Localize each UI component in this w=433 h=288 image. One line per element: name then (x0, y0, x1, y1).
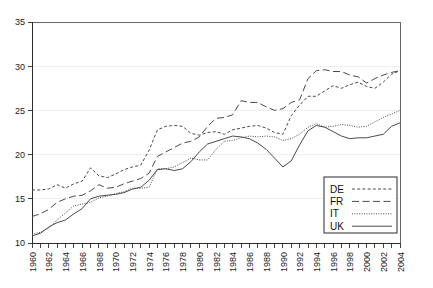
legend-label-uk: UK (330, 221, 344, 232)
y-tick-label: 35 (15, 17, 25, 27)
chart-legend: DEFRITUK (324, 177, 397, 233)
x-tick-label: 1966 (78, 252, 88, 272)
y-tick-label: 30 (15, 62, 25, 72)
x-tick-label: 1988 (262, 252, 272, 272)
x-tick-label: 1990 (279, 252, 289, 272)
x-axis: 1960196219641966196819701972197419761978… (28, 243, 406, 272)
x-tick-label: 1992 (295, 252, 305, 272)
line-chart: 101520253035 196019621964196619681970197… (0, 0, 433, 288)
legend-label-de: DE (330, 184, 344, 195)
x-tick-label: 1998 (345, 252, 355, 272)
x-tick-label: 1970 (111, 252, 121, 272)
x-tick-label: 2000 (362, 252, 372, 272)
x-tick-label: 1974 (145, 252, 155, 272)
y-tick-label: 20 (15, 150, 25, 160)
x-tick-label: 1964 (61, 252, 71, 272)
x-tick-label: 1978 (178, 252, 188, 272)
x-tick-label: 1960 (28, 252, 38, 272)
x-tick-label: 1982 (212, 252, 222, 272)
y-tick-label: 15 (15, 194, 25, 204)
legend-label-fr: FR (330, 196, 343, 207)
x-tick-label: 2004 (396, 252, 406, 272)
legend-label-it: IT (330, 208, 339, 219)
y-tick-label: 10 (15, 238, 25, 248)
x-tick-label: 1962 (44, 252, 54, 272)
x-tick-label: 1984 (228, 252, 238, 272)
x-tick-label: 1980 (195, 252, 205, 272)
y-tick-label: 25 (15, 106, 25, 116)
x-tick-label: 1994 (312, 252, 322, 272)
x-tick-label: 1986 (245, 252, 255, 272)
y-axis: 101520253035 (15, 17, 32, 248)
x-tick-label: 1976 (161, 252, 171, 272)
x-tick-label: 2002 (379, 252, 389, 272)
x-tick-label: 1996 (329, 252, 339, 272)
series-line-de (32, 71, 400, 190)
x-tick-label: 1972 (128, 252, 138, 272)
chart-canvas: 101520253035 196019621964196619681970197… (0, 0, 433, 288)
x-tick-label: 1968 (95, 252, 105, 272)
